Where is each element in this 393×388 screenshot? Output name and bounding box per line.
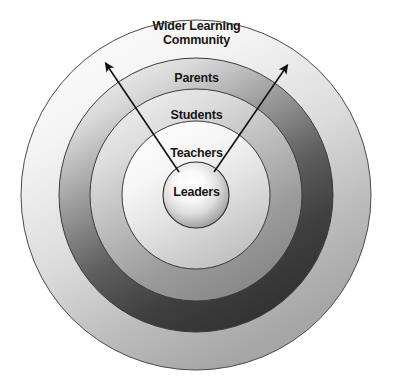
concentric-circles-diagram: Wider Learning Community Parents Student… [0,0,393,388]
ring-label-teachers: Teachers [0,147,393,161]
ring-label-leaders: Leaders [0,186,393,200]
ring-label-students: Students [0,109,393,123]
ring-label-parents: Parents [0,72,393,86]
ring-label-wider-learning-community: Wider Learning Community [0,20,393,47]
